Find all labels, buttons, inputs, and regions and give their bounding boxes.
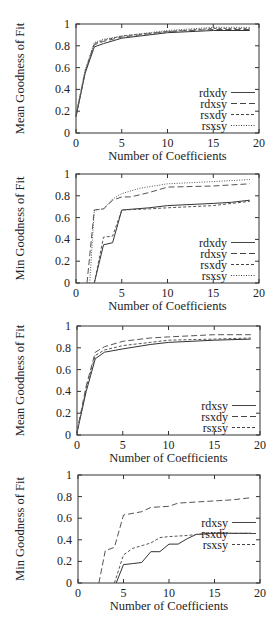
y-axis-label: Mean Goodness of Fit <box>13 324 27 436</box>
x-tick-label: 5 <box>119 136 125 150</box>
x-tick-label: 0 <box>74 438 80 452</box>
y-tick-label: 0.4 <box>57 533 72 547</box>
chart-svg: 00.20.40.60.8105101520Number of Coeffici… <box>0 451 279 628</box>
x-tick-label: 20 <box>253 136 265 150</box>
x-tick-label: 15 <box>207 136 219 150</box>
x-tick-label: 15 <box>209 586 221 600</box>
chart-svg: 00.20.40.60.8105101520Number of Coeffici… <box>0 150 279 310</box>
series-line-rdxsy <box>116 533 251 583</box>
chart-min-fit-4-series: 00.20.40.60.8105101520Number of Coeffici… <box>0 150 279 310</box>
y-tick-label: 0.8 <box>55 39 70 53</box>
y-tick-label: 0 <box>64 276 70 290</box>
y-tick-label: 1 <box>65 319 71 333</box>
y-tick-label: 0.6 <box>55 211 70 225</box>
x-tick-label: 0 <box>73 136 79 150</box>
plot-frame <box>78 475 260 583</box>
x-tick-label: 20 <box>254 586 266 600</box>
y-tick-label: 0 <box>64 126 70 140</box>
y-tick-label: 0.4 <box>55 232 70 246</box>
plot-frame <box>76 174 259 283</box>
y-axis-label: Mean Goodness of Fit <box>13 22 27 134</box>
y-tick-label: 0.8 <box>56 341 71 355</box>
x-tick-label: 15 <box>208 438 220 452</box>
y-tick-label: 0.2 <box>55 104 70 118</box>
chart-mean-fit-4-series: 00.20.40.60.8105101520Number of Coeffici… <box>0 0 279 160</box>
y-tick-label: 0.2 <box>56 406 71 420</box>
y-tick-label: 0 <box>65 428 71 442</box>
y-tick-label: 0.2 <box>57 554 72 568</box>
y-tick-label: 0 <box>66 576 72 590</box>
y-tick-label: 0.4 <box>56 384 71 398</box>
chart-mean-fit-3-series: 00.20.40.60.8105101520Number of Coeffici… <box>0 302 279 462</box>
x-tick-label: 10 <box>162 136 174 150</box>
legend-label-rsxsy: rsxsy <box>203 538 228 552</box>
x-tick-label: 15 <box>207 286 219 300</box>
x-tick-label: 5 <box>119 286 125 300</box>
x-tick-label: 20 <box>253 286 265 300</box>
y-tick-label: 1 <box>64 167 70 181</box>
plot-frame <box>76 24 259 133</box>
x-tick-label: 0 <box>73 286 79 300</box>
x-tick-label: 5 <box>121 586 127 600</box>
legend-label-rsxsy: rsxsy <box>202 269 227 283</box>
y-tick-label: 0.6 <box>55 61 70 75</box>
x-tick-label: 5 <box>120 438 126 452</box>
y-tick-label: 0.8 <box>57 490 72 504</box>
x-tick-label: 20 <box>254 438 266 452</box>
series-line-rsxsy <box>114 533 251 583</box>
y-tick-label: 0.6 <box>56 363 71 377</box>
y-tick-label: 0.4 <box>55 82 70 96</box>
legend-label-rsxsy: rsxsy <box>203 421 228 435</box>
x-tick-label: 10 <box>163 438 175 452</box>
y-tick-label: 1 <box>66 468 72 482</box>
chart-min-fit-3-series: 00.20.40.60.8105101520Number of Coeffici… <box>0 451 279 628</box>
y-axis-label: Min Goodness of Fit <box>13 176 27 280</box>
legend-label-rsxsy: rsxsy <box>202 119 227 133</box>
chart-svg: 00.20.40.60.8105101520Number of Coeffici… <box>0 0 279 160</box>
x-axis-label: Number of Coefficients <box>110 599 229 613</box>
x-tick-label: 10 <box>163 586 175 600</box>
x-tick-label: 0 <box>75 586 81 600</box>
y-tick-label: 0.2 <box>55 254 70 268</box>
y-axis-label: Min Goodness of Fit <box>13 477 27 581</box>
y-tick-label: 0.6 <box>57 511 72 525</box>
x-tick-label: 10 <box>162 286 174 300</box>
chart-svg: 00.20.40.60.8105101520Number of Coeffici… <box>0 302 279 462</box>
y-tick-label: 1 <box>64 17 70 31</box>
y-tick-label: 0.8 <box>55 189 70 203</box>
